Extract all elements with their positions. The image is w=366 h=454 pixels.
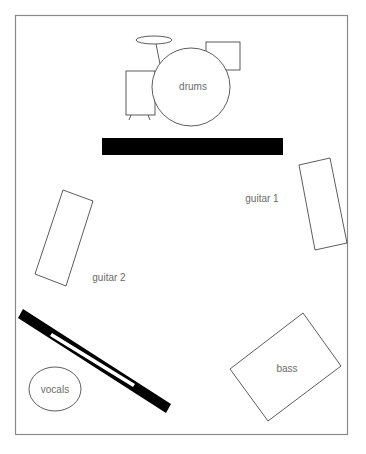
bass-label: bass	[276, 363, 297, 374]
drum-riser-bar	[102, 138, 283, 155]
vocals-label: vocals	[41, 384, 69, 395]
guitar1-label: guitar 1	[245, 193, 279, 204]
drums-label: drums	[179, 81, 207, 92]
stage-plot: drums guitar 1 guitar 2 vocals bass	[0, 0, 366, 454]
guitar2-label: guitar 2	[92, 272, 126, 283]
